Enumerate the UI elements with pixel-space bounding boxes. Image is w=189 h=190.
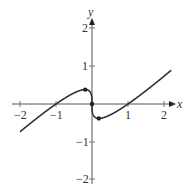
x-axis-label: x	[176, 97, 183, 111]
y-tick-1: 1	[82, 59, 88, 73]
function-plot: x y −2 −1 1 2 2 1 −1 −2	[0, 0, 189, 190]
origin-point	[90, 102, 94, 106]
y-tick-2: 2	[82, 21, 88, 35]
y-tick-minus-1: −1	[76, 135, 89, 149]
function-curve	[20, 70, 171, 131]
local-max-point	[83, 87, 87, 91]
y-axis-label: y	[87, 5, 94, 19]
x-tick-2: 2	[161, 108, 167, 122]
local-min-point	[97, 116, 101, 120]
y-tick-minus-2: −2	[76, 172, 89, 186]
x-tick-minus-1: −1	[50, 108, 63, 122]
x-tick-minus-2: −2	[14, 108, 27, 122]
x-tick-1: 1	[125, 108, 131, 122]
x-axis-arrow-icon	[169, 101, 176, 107]
y-axis-arrow-icon	[89, 18, 95, 25]
